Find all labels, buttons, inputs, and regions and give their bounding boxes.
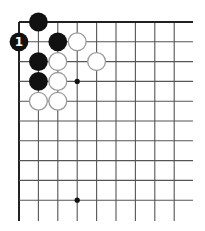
white-stone [30, 92, 48, 110]
black-stone [29, 72, 48, 91]
black-stone: 1 [10, 32, 29, 51]
white-stone-icon [49, 73, 67, 91]
white-stone-icon [30, 92, 48, 110]
white-stone [49, 92, 67, 110]
black-stone-icon [29, 13, 48, 32]
white-stone [68, 33, 86, 51]
star-point-icon [75, 79, 80, 84]
white-stone-icon [49, 92, 67, 110]
move-number-label: 1 [15, 35, 23, 49]
board-grid [19, 22, 193, 221]
black-stone-icon [29, 72, 48, 91]
go-board-diagram: 1 [0, 0, 205, 231]
black-stone-icon [48, 32, 67, 51]
white-stone [88, 53, 106, 71]
white-stone [49, 73, 67, 91]
white-stone [49, 53, 67, 71]
black-stone [29, 52, 48, 71]
black-stone [48, 32, 67, 51]
star-point-icon [75, 198, 80, 203]
white-stone-icon [49, 53, 67, 71]
black-stone-icon [29, 52, 48, 71]
black-stone [29, 13, 48, 32]
white-stone-icon [68, 33, 86, 51]
white-stone-icon [88, 53, 106, 71]
